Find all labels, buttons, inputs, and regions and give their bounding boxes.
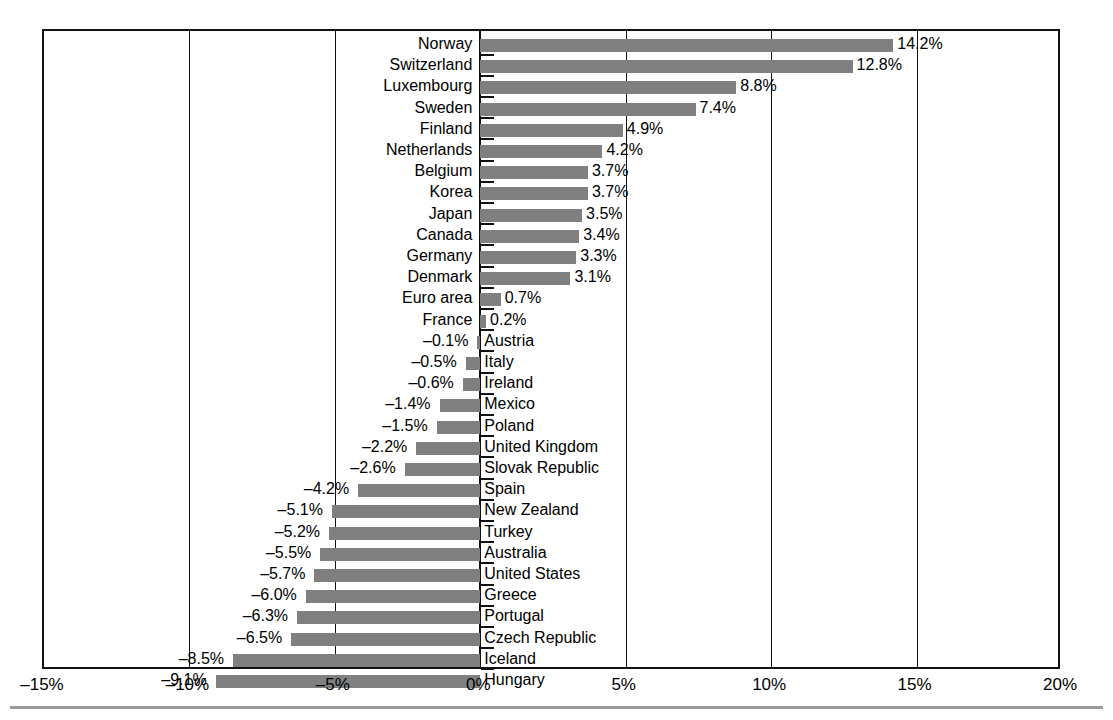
bar-row: Belgium3.7% xyxy=(44,162,1058,183)
category-label: Japan xyxy=(429,206,473,222)
bar-austria xyxy=(477,336,480,349)
value-label: –5.7% xyxy=(260,566,305,582)
plot-area: Norway14.2%Switzerland12.8%Luxembourg8.8… xyxy=(42,29,1060,669)
category-label: Slovak Republic xyxy=(484,460,599,476)
value-label: –0.6% xyxy=(408,375,453,391)
category-label: Poland xyxy=(484,418,534,434)
category-label: Euro area xyxy=(402,290,472,306)
value-label: –2.6% xyxy=(350,460,395,476)
bar-row: Ireland–0.6% xyxy=(44,374,1058,395)
bar-row: Poland–1.5% xyxy=(44,417,1058,438)
bar-row: Japan3.5% xyxy=(44,205,1058,226)
category-label: Turkey xyxy=(484,524,532,540)
bar-korea xyxy=(480,187,588,200)
x-tick-label-15: 15% xyxy=(870,676,960,694)
bar-row: Canada3.4% xyxy=(44,226,1058,247)
bar-row: United Kingdom–2.2% xyxy=(44,438,1058,459)
category-label: Netherlands xyxy=(386,142,472,158)
category-label: Germany xyxy=(407,248,473,264)
bar-row: Euro area0.7% xyxy=(44,289,1058,310)
category-label: New Zealand xyxy=(484,502,578,518)
bar-row: Czech Republic–6.5% xyxy=(44,629,1058,650)
category-label: France xyxy=(423,312,473,328)
bar-row: Switzerland12.8% xyxy=(44,56,1058,77)
bar-norway xyxy=(480,39,893,52)
category-label: Australia xyxy=(484,545,546,561)
category-label: United States xyxy=(484,566,580,582)
bar-row: Germany3.3% xyxy=(44,247,1058,268)
value-label: 3.7% xyxy=(592,184,628,200)
bar-luxembourg xyxy=(480,81,736,94)
bar-row: United States–5.7% xyxy=(44,565,1058,586)
bar-row: France0.2% xyxy=(44,311,1058,332)
category-label: Greece xyxy=(484,587,536,603)
bar-japan xyxy=(480,209,582,222)
bar-row: Australia–5.5% xyxy=(44,544,1058,565)
bar-row: Sweden7.4% xyxy=(44,99,1058,120)
bar-row: Austria–0.1% xyxy=(44,332,1058,353)
bar-spain xyxy=(358,484,480,497)
category-label: Norway xyxy=(418,36,472,52)
bar-netherlands xyxy=(480,145,602,158)
bar-row: Finland4.9% xyxy=(44,120,1058,141)
bar-canada xyxy=(480,230,579,243)
x-tick-label--15: –15% xyxy=(0,676,87,694)
bar-czech-republic xyxy=(291,633,480,646)
value-label: 0.7% xyxy=(505,290,541,306)
value-label: –0.1% xyxy=(423,333,468,349)
value-label: 4.9% xyxy=(627,121,663,137)
value-label: –4.2% xyxy=(304,481,349,497)
bar-row: Spain–4.2% xyxy=(44,480,1058,501)
value-label: 0.2% xyxy=(490,312,526,328)
bar-row: Iceland–8.5% xyxy=(44,650,1058,671)
category-label: Denmark xyxy=(407,269,472,285)
bar-iceland xyxy=(233,654,480,667)
bar-row: Netherlands4.2% xyxy=(44,141,1058,162)
bar-row: Denmark3.1% xyxy=(44,268,1058,289)
value-label: 3.7% xyxy=(592,163,628,179)
category-label: Ireland xyxy=(484,375,533,391)
bar-row: Korea3.7% xyxy=(44,183,1058,204)
bar-poland xyxy=(437,421,481,434)
x-tick-label--10: –10% xyxy=(142,676,232,694)
category-label: Austria xyxy=(484,333,534,349)
category-label: Luxembourg xyxy=(383,78,472,94)
category-label: Belgium xyxy=(414,163,472,179)
bar-australia xyxy=(320,548,480,561)
bar-row: Italy–0.5% xyxy=(44,353,1058,374)
bar-row: Mexico–1.4% xyxy=(44,395,1058,416)
bar-row: New Zealand–5.1% xyxy=(44,501,1058,522)
bar-row: Greece–6.0% xyxy=(44,586,1058,607)
value-label: –5.2% xyxy=(275,524,320,540)
bottom-divider-rule xyxy=(10,706,1103,709)
x-tick-label-10: 10% xyxy=(724,676,814,694)
bar-mexico xyxy=(440,399,481,412)
value-label: –2.2% xyxy=(362,439,407,455)
bar-turkey xyxy=(329,527,480,540)
bar-rows: Norway14.2%Switzerland12.8%Luxembourg8.8… xyxy=(44,31,1058,667)
category-label: Iceland xyxy=(484,651,536,667)
value-label: –1.5% xyxy=(382,418,427,434)
bar-greece xyxy=(306,590,481,603)
chart-figure: Norway14.2%Switzerland12.8%Luxembourg8.8… xyxy=(0,0,1113,720)
category-label: Canada xyxy=(416,227,472,243)
bar-portugal xyxy=(297,611,480,624)
value-label: –1.4% xyxy=(385,396,430,412)
category-label: Italy xyxy=(484,354,513,370)
bar-row: Luxembourg8.8% xyxy=(44,77,1058,98)
bar-united-states xyxy=(314,569,480,582)
value-label: –0.5% xyxy=(411,354,456,370)
bar-united-kingdom xyxy=(416,442,480,455)
category-label: Czech Republic xyxy=(484,630,596,646)
value-label: 7.4% xyxy=(700,100,736,116)
value-label: –5.5% xyxy=(266,545,311,561)
value-label: 3.4% xyxy=(583,227,619,243)
bar-row: Turkey–5.2% xyxy=(44,523,1058,544)
x-tick-label-20: 20% xyxy=(1015,676,1105,694)
bar-finland xyxy=(480,124,623,137)
bar-germany xyxy=(480,251,576,264)
bar-row: Norway14.2% xyxy=(44,35,1058,56)
category-label: United Kingdom xyxy=(484,439,598,455)
value-label: –5.1% xyxy=(278,502,323,518)
bar-row: Portugal–6.3% xyxy=(44,607,1058,628)
